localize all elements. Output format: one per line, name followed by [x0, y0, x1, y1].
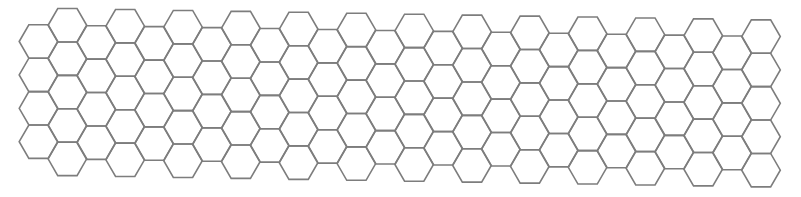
hexagon-cell: [742, 20, 781, 53]
hexagon-grid-diagram: [0, 0, 801, 197]
hexagon-grid: [0, 0, 801, 197]
